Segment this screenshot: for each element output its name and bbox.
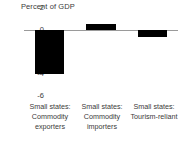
bar <box>86 24 115 30</box>
x-axis-category-label: Small states: Commodity importers <box>76 102 128 142</box>
y-axis-tick-label: -6 <box>26 92 44 100</box>
x-axis-category-line: exporters <box>24 122 76 132</box>
x-axis-labels: Small states: Commodity exporters Small … <box>24 102 180 142</box>
x-axis-category-line: Tourism-reliant <box>128 112 180 122</box>
bar <box>138 30 167 37</box>
x-axis-category-line: importers <box>76 122 128 132</box>
bar <box>35 30 64 74</box>
x-axis-category-label: Small states: Commodity exporters <box>24 102 76 142</box>
x-axis-category-line: Small states: <box>76 102 128 112</box>
y-axis-tick-label: 2 <box>26 4 44 12</box>
plot-area: 2 0 -2 -4 -6 <box>24 8 178 96</box>
x-axis-category-line: Small states: <box>128 102 180 112</box>
bar-chart: Percent of GDP 2 0 -2 -4 -6 Small states… <box>0 0 182 142</box>
x-axis-category-line: Commodity <box>24 112 76 122</box>
x-axis-category-line: Small states: <box>24 102 76 112</box>
x-axis-category-label: Small states: Tourism-reliant <box>128 102 180 142</box>
x-axis-category-line: Commodity <box>76 112 128 122</box>
